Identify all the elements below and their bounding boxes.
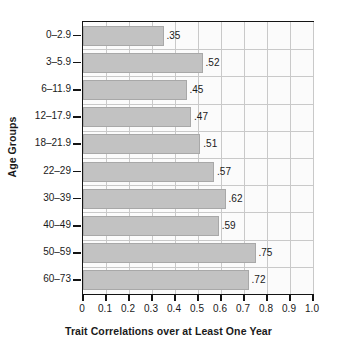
y-axis-tick-mark — [73, 252, 81, 254]
gridline-horizontal — [83, 185, 313, 186]
y-axis-tick-label: 3–5.9 — [46, 57, 71, 67]
gridline-horizontal — [83, 104, 313, 105]
bar — [83, 243, 256, 263]
x-axis-tick-label: 0.6 — [213, 304, 227, 314]
x-axis-tick-label: 0 — [79, 304, 85, 314]
bar-value-label: .45 — [190, 85, 204, 95]
bar-value-label: .47 — [194, 112, 208, 122]
y-axis-tick-mark — [73, 279, 81, 281]
gridline-horizontal — [83, 267, 313, 268]
bar-chart: Age Groups 0–2.93–5.96–11.912–17.918–21.… — [0, 0, 337, 351]
y-axis-tick-label: 12–17.9 — [35, 111, 71, 121]
bar-value-label: .75 — [259, 248, 273, 258]
y-axis-tick-label: 40–49 — [43, 220, 71, 230]
x-axis-tick-label: 0.7 — [236, 304, 250, 314]
bar-value-label: .57 — [217, 167, 231, 177]
bar-value-label: .62 — [229, 194, 243, 204]
bar-value-label: .52 — [206, 58, 220, 68]
bar — [83, 270, 249, 290]
x-axis-title: Trait Correlations over at Least One Yea… — [0, 325, 337, 337]
x-axis-tick-mark — [105, 294, 107, 301]
x-axis-tick-mark — [312, 294, 314, 301]
y-axis-tick-mark — [73, 35, 81, 37]
y-axis-tick-label: 60–73 — [43, 274, 71, 284]
bar — [83, 107, 191, 127]
gridline-horizontal — [83, 76, 313, 77]
bar — [83, 80, 187, 100]
y-axis-tick-label: 30–39 — [43, 193, 71, 203]
x-axis-tick-label: 0.5 — [190, 304, 204, 314]
y-axis-tick-mark — [73, 198, 81, 200]
gridline-horizontal — [83, 158, 313, 159]
bar — [83, 26, 164, 46]
x-axis-tick-mark — [82, 294, 84, 301]
bar — [83, 134, 200, 154]
y-axis-tick-label: 50–59 — [43, 247, 71, 257]
x-axis-tick-label: 0.9 — [282, 304, 296, 314]
bar-value-label: .35 — [167, 31, 181, 41]
y-axis-tick-mark — [73, 143, 81, 145]
y-axis-tick-label: 18–21.9 — [35, 138, 71, 148]
x-axis-tick-label: 0.8 — [259, 304, 273, 314]
y-axis-tick-mark — [73, 62, 81, 64]
x-axis-tick-mark — [197, 294, 199, 301]
x-axis-tick-label: 1.0 — [305, 304, 319, 314]
gridline-horizontal — [83, 212, 313, 213]
x-axis-tick-mark — [243, 294, 245, 301]
bar-value-label: .72 — [252, 275, 266, 285]
y-axis-tick-mark — [73, 225, 81, 227]
y-axis-tick-label: 22–29 — [43, 166, 71, 176]
x-axis-tick-label: 0.2 — [121, 304, 135, 314]
y-axis-tick-label: 6–11.9 — [41, 84, 71, 94]
x-axis-tick-mark — [220, 294, 222, 301]
y-axis-tick-mark — [73, 116, 81, 118]
plot-area: .35.52.45.47.51.57.62.59.75.72 — [82, 21, 314, 295]
gridline-horizontal — [83, 131, 313, 132]
y-axis-tick-mark — [73, 89, 81, 91]
bar-value-label: .59 — [222, 221, 236, 231]
y-axis-tick-mark — [73, 171, 81, 173]
gridline-vertical — [313, 22, 314, 294]
bar — [83, 189, 226, 209]
bar — [83, 53, 203, 73]
bar — [83, 162, 214, 182]
x-axis-tick-label: 0.3 — [144, 304, 158, 314]
x-axis-tick-mark — [289, 294, 291, 301]
bar-value-label: .51 — [203, 139, 217, 149]
x-axis-tick-label: 0.4 — [167, 304, 181, 314]
x-axis-tick-label: 0.1 — [98, 304, 112, 314]
x-axis-tick-mark — [174, 294, 176, 301]
y-axis-tick-label: 0–2.9 — [46, 30, 71, 40]
gridline-horizontal — [83, 240, 313, 241]
x-axis-tick-mark — [151, 294, 153, 301]
x-axis-tick-mark — [128, 294, 130, 301]
x-axis-tick-mark — [266, 294, 268, 301]
bar — [83, 216, 219, 236]
gridline-horizontal — [83, 49, 313, 50]
y-axis-tick-labels: 0–2.93–5.96–11.912–17.918–21.922–2930–39… — [0, 0, 71, 351]
